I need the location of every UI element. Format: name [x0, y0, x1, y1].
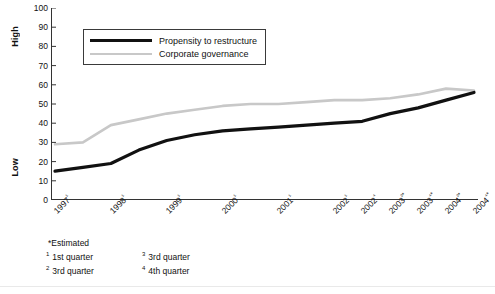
y-tick-label: 10: [39, 176, 48, 186]
y-tick-label: 70: [39, 61, 48, 71]
footnote-item: 33rd quarter: [142, 249, 190, 263]
footnote-estimated: *Estimated: [48, 238, 190, 249]
y-tick-label: 0: [43, 195, 48, 205]
legend-swatch: [90, 53, 152, 55]
footnote-list: 11st quarter33rd quarter23rd quarter44th…: [46, 249, 190, 277]
legend-label: Corporate governance: [159, 49, 249, 59]
chart-legend: Propensity to restructureCorporate gover…: [83, 29, 266, 65]
footnote-item: 11st quarter: [46, 249, 142, 263]
bottom-divider: [0, 286, 495, 287]
y-tick-label: 50: [39, 99, 48, 109]
legend-swatch: [90, 39, 152, 42]
y-tick-label: 80: [39, 41, 48, 51]
y-tick-label: 90: [39, 22, 48, 32]
legend-item: Propensity to restructure: [90, 34, 257, 47]
footnote-item: 44th quarter: [142, 263, 190, 277]
y-tick-label: 100: [34, 3, 48, 13]
legend-item: Corporate governance: [90, 47, 257, 60]
footnotes: *Estimated 11st quarter33rd quarter23rd …: [46, 238, 190, 277]
y-tick-label: 30: [39, 137, 48, 147]
legend-label: Propensity to restructure: [159, 36, 257, 46]
chart-figure: High Low 1009080706050403020100 Propensi…: [0, 0, 495, 294]
footnote-item: 23rd quarter: [46, 263, 142, 277]
y-tick-label: 60: [39, 80, 48, 90]
series-line: [55, 89, 474, 145]
y-axis: 1009080706050403020100: [0, 8, 48, 200]
y-tick-label: 20: [39, 157, 48, 167]
y-tick-label: 40: [39, 118, 48, 128]
